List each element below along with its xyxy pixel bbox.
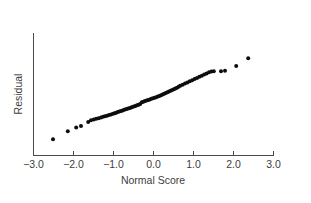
x-axis-ticks	[34, 151, 274, 156]
x-axis-tick-label: 2.0	[226, 158, 241, 170]
data-point	[223, 69, 227, 73]
x-axis-tick-label: 0.0	[146, 158, 161, 170]
data-point	[51, 137, 55, 141]
data-point	[79, 124, 83, 128]
data-points	[51, 56, 250, 141]
data-point	[74, 126, 78, 130]
data-point	[246, 56, 250, 60]
y-axis-title: Residual	[12, 74, 24, 115]
chart-page: −3.0−2.0−1.00.01.02.03.0 Normal Score Re…	[0, 0, 311, 203]
x-axis-tick-label: −1.0	[103, 158, 124, 170]
data-point	[66, 129, 70, 133]
data-point	[212, 69, 216, 73]
data-point	[219, 69, 223, 73]
x-axis-tick-label: 3.0	[266, 158, 281, 170]
x-axis-tick-label: 1.0	[186, 158, 201, 170]
x-axis-tick-label: −2.0	[63, 158, 84, 170]
data-point	[234, 64, 238, 68]
x-axis-title: Normal Score	[121, 174, 185, 186]
x-axis-tick-labels: −3.0−2.0−1.00.01.02.03.0	[23, 158, 281, 170]
x-axis-tick-label: −3.0	[23, 158, 44, 170]
normal-probability-plot: −3.0−2.0−1.00.01.02.03.0 Normal Score Re…	[0, 0, 311, 203]
